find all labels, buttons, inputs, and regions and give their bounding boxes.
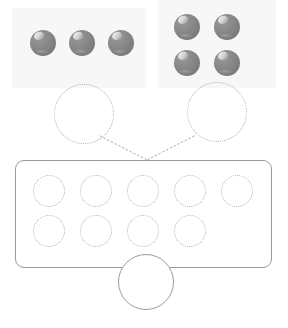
answer-slot[interactable] xyxy=(174,175,206,207)
counter-group-right-panel xyxy=(158,0,276,88)
counter-sphere[interactable] xyxy=(214,50,240,76)
answer-slot[interactable] xyxy=(221,175,253,207)
counter-sphere[interactable] xyxy=(69,30,95,56)
counter-sphere[interactable] xyxy=(108,30,134,56)
answer-slot[interactable] xyxy=(80,175,112,207)
bond-slot-left[interactable] xyxy=(54,84,114,144)
counter-sphere[interactable] xyxy=(174,14,200,40)
counter-sphere[interactable] xyxy=(30,30,56,56)
answer-slot[interactable] xyxy=(80,215,112,247)
answer-slot[interactable] xyxy=(33,215,65,247)
connector-line-right xyxy=(147,136,194,160)
counter-sphere[interactable] xyxy=(174,50,200,76)
answer-slot[interactable] xyxy=(33,175,65,207)
answer-slot[interactable] xyxy=(127,215,159,247)
total-slot[interactable] xyxy=(118,254,174,310)
exercise-canvas xyxy=(0,0,288,328)
connector-line-left xyxy=(100,136,147,160)
bond-slot-right[interactable] xyxy=(187,82,247,142)
counter-sphere[interactable] xyxy=(214,14,240,40)
answer-slot[interactable] xyxy=(127,175,159,207)
answer-slot[interactable] xyxy=(174,215,206,247)
